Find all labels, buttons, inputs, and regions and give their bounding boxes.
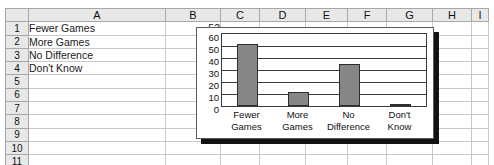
column-header-c[interactable]: C: [221, 9, 260, 22]
chart-plot-area: [221, 33, 427, 107]
cell-a8[interactable]: [29, 115, 166, 128]
cell-a4[interactable]: Don't Know: [29, 62, 166, 75]
chart-frame[interactable]: 6050403020100 FewerGamesMoreGamesNoDiffe…: [196, 27, 434, 139]
x-axis-category-label: Don'tKnow: [374, 109, 425, 132]
x-axis-category-label: MoreGames: [272, 109, 323, 132]
x-axis-label-line: Games: [221, 121, 272, 133]
y-axis-tick-labels: 6050403020100: [199, 33, 219, 107]
y-axis-tick-label: 20: [208, 81, 219, 91]
cell-i2[interactable]: [472, 35, 489, 48]
x-axis-category-label: FewerGames: [221, 109, 272, 132]
row-header-5[interactable]: 5: [6, 75, 29, 88]
cell-a11[interactable]: [29, 155, 166, 165]
y-axis-tick-label: 10: [208, 93, 219, 103]
column-header-g[interactable]: G: [387, 9, 433, 22]
x-axis-category-label: NoDifference: [323, 109, 374, 132]
chart-bar[interactable]: [288, 92, 309, 106]
chart-bar[interactable]: [237, 44, 258, 106]
cell-h11[interactable]: [433, 155, 472, 165]
y-axis-tick-label: 30: [208, 69, 219, 79]
cell-e11[interactable]: [306, 155, 348, 165]
row-header-11[interactable]: 11: [6, 155, 29, 165]
cell-a2[interactable]: More Games: [29, 35, 166, 48]
table-row: 11: [6, 155, 489, 165]
cell-c11[interactable]: [221, 155, 260, 165]
column-header-b[interactable]: B: [166, 9, 221, 22]
cell-a1[interactable]: Fewer Games: [29, 22, 166, 35]
cell-a9[interactable]: [29, 128, 166, 141]
x-axis-label-line: Don't: [374, 109, 425, 121]
x-axis-label-line: More: [272, 109, 323, 121]
column-header-i[interactable]: I: [472, 9, 489, 22]
cell-f11[interactable]: [348, 155, 387, 165]
x-axis-label-line: Fewer: [221, 109, 272, 121]
row-header-8[interactable]: 8: [6, 115, 29, 128]
cell-i6[interactable]: [472, 88, 489, 101]
cell-d11[interactable]: [260, 155, 306, 165]
cell-a6[interactable]: [29, 88, 166, 101]
cell-a3[interactable]: No Difference: [29, 48, 166, 61]
x-axis-label-line: Games: [272, 121, 323, 133]
cell-i8[interactable]: [472, 115, 489, 128]
x-axis-label-line: Difference: [323, 121, 374, 133]
column-header-row: A B C D E F G H I: [6, 9, 489, 22]
embedded-bar-chart[interactable]: 6050403020100 FewerGamesMoreGamesNoDiffe…: [196, 27, 434, 139]
cell-i11[interactable]: [472, 155, 489, 165]
select-all-corner[interactable]: [6, 9, 29, 22]
x-axis-label-line: No: [323, 109, 374, 121]
x-axis-label-line: Know: [374, 121, 425, 133]
chart-bar[interactable]: [339, 64, 360, 106]
cell-a10[interactable]: [29, 141, 166, 154]
column-header-f[interactable]: F: [348, 9, 387, 22]
column-header-a[interactable]: A: [29, 9, 166, 22]
cell-g11[interactable]: [387, 155, 433, 165]
row-header-2[interactable]: 2: [6, 35, 29, 48]
cell-a5[interactable]: [29, 75, 166, 88]
y-axis-tick-label: 40: [208, 57, 219, 67]
column-header-h[interactable]: H: [433, 9, 472, 22]
chart-bar[interactable]: [390, 104, 411, 106]
y-axis-tick-label: 60: [208, 33, 219, 43]
row-header-10[interactable]: 10: [6, 141, 29, 154]
y-axis-tick-label: 0: [214, 105, 219, 115]
cell-i1[interactable]: [472, 22, 489, 35]
column-header-e[interactable]: E: [306, 9, 348, 22]
cell-i3[interactable]: [472, 48, 489, 61]
row-header-1[interactable]: 1: [6, 22, 29, 35]
cell-i10[interactable]: [472, 141, 489, 154]
row-header-6[interactable]: 6: [6, 88, 29, 101]
column-header-d[interactable]: D: [260, 9, 306, 22]
cell-i9[interactable]: [472, 128, 489, 141]
row-header-7[interactable]: 7: [6, 102, 29, 115]
row-header-3[interactable]: 3: [6, 48, 29, 61]
row-header-4[interactable]: 4: [6, 62, 29, 75]
cell-i4[interactable]: [472, 62, 489, 75]
cell-i7[interactable]: [472, 102, 489, 115]
cell-a7[interactable]: [29, 102, 166, 115]
x-axis-category-labels: FewerGamesMoreGamesNoDifferenceDon'tKnow: [221, 109, 427, 137]
row-header-9[interactable]: 9: [6, 128, 29, 141]
spreadsheet-screenshot: A B C D E F G H I 1 Fewer Games 52: [0, 0, 494, 165]
cell-i5[interactable]: [472, 75, 489, 88]
y-axis-tick-label: 50: [208, 45, 219, 55]
cell-b11[interactable]: [166, 155, 221, 165]
